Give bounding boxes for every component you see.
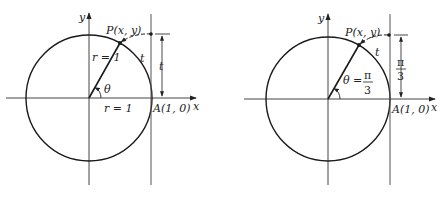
x-axis-label: x bbox=[193, 100, 200, 113]
tangent-length-numerator: π bbox=[397, 56, 404, 69]
angle-numerator: π bbox=[364, 69, 371, 82]
x-axis-label: x bbox=[431, 101, 438, 114]
anchor-label: A(1, 0) bbox=[152, 102, 191, 115]
anchor-label: A(1, 0) bbox=[391, 103, 430, 116]
y-axis-label: y bbox=[78, 11, 86, 24]
tangent-length-label: t bbox=[159, 60, 164, 73]
x-radius-label: r = 1 bbox=[104, 102, 132, 115]
point-label: P(x, y) bbox=[105, 24, 141, 37]
tangent-length-denominator: 3 bbox=[397, 70, 404, 83]
arc-label: t bbox=[140, 52, 145, 65]
tangent-point bbox=[149, 32, 153, 36]
point-label: P(x, y) bbox=[344, 26, 380, 39]
angle-label: θ bbox=[104, 83, 111, 96]
tangent-point bbox=[387, 33, 391, 37]
radius-line bbox=[328, 45, 359, 99]
figure-left: y x P(x, y) t t r = 1 θ r = 1 A(1, 0) bbox=[6, 11, 200, 185]
arc-label: t bbox=[375, 46, 380, 59]
radius-label: r = 1 bbox=[92, 51, 120, 64]
angle-prefix: θ = bbox=[343, 74, 362, 87]
angle-denominator: 3 bbox=[364, 84, 371, 97]
unit-circle-diagrams: y x P(x, y) t t r = 1 θ r = 1 A(1, 0) y … bbox=[0, 0, 447, 200]
angle-arc bbox=[334, 89, 340, 100]
angle-arc bbox=[95, 88, 101, 99]
y-axis-label: y bbox=[317, 12, 325, 25]
figure-right: y x P(x, y) t π 3 θ = π 3 A(1, 0) bbox=[244, 12, 438, 185]
point-p bbox=[357, 43, 361, 47]
